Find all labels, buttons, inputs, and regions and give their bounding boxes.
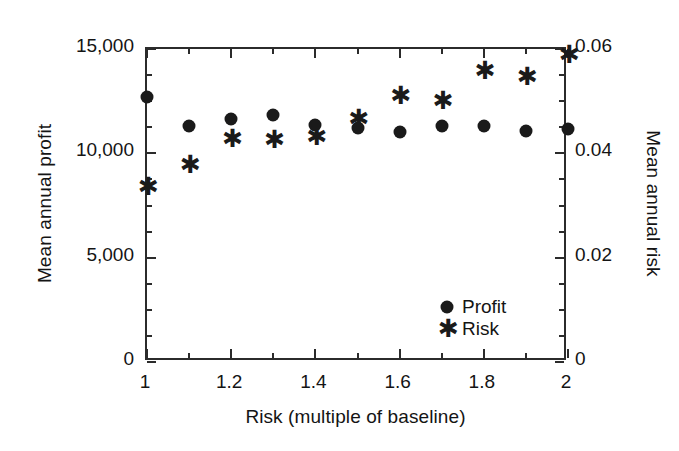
tick-x-bottom-major: [314, 349, 316, 358]
star-icon: [438, 320, 456, 338]
y-axis-left-title: Mean annual profit: [30, 47, 60, 360]
tick-x-top-major: [399, 49, 401, 58]
legend-item-risk[interactable]: Risk: [436, 318, 556, 340]
tick-y-right-minor: [559, 335, 564, 337]
tick-x-bottom-minor: [525, 353, 527, 358]
tick-x-bottom-minor: [441, 353, 443, 358]
x-axis-tick-label: 1.2: [189, 371, 269, 393]
tick-x-top-minor: [357, 49, 359, 54]
tick-x-bottom-major: [567, 349, 569, 358]
tick-y-left-major: [147, 361, 156, 363]
legend-label-risk: Risk: [462, 318, 499, 340]
tick-x-top-major: [146, 49, 148, 58]
profit-point-1.9[interactable]: [519, 125, 532, 138]
tick-x-bottom-minor: [357, 353, 359, 358]
x-axis-tick-label: 1.8: [442, 371, 522, 393]
tick-x-top-major: [230, 49, 232, 58]
tick-y-left-minor: [147, 309, 152, 311]
tick-x-bottom-minor: [188, 353, 190, 358]
profit-point-1.1[interactable]: [183, 120, 196, 133]
profit-point-1.6[interactable]: [393, 126, 406, 139]
tick-x-bottom-major: [399, 349, 401, 358]
tick-x-top-major: [314, 49, 316, 58]
y-axis-right-title: Mean annual risk: [638, 47, 668, 360]
profit-point-2[interactable]: [562, 123, 575, 136]
risk-point-1.5[interactable]: [349, 110, 367, 128]
y-axis-right-tick-label: 0.04: [575, 139, 675, 161]
tick-y-right-minor: [559, 178, 564, 180]
profit-point-1.3[interactable]: [267, 108, 280, 121]
tick-y-left-minor: [147, 335, 152, 337]
tick-y-right-minor: [559, 205, 564, 207]
y-axis-left-tick-label: 5,000: [14, 244, 134, 266]
y-axis-right-tick-label: 0: [575, 348, 675, 370]
risk-point-1.6[interactable]: [391, 87, 409, 105]
y-axis-left-tick-label: 15,000: [14, 35, 134, 57]
y-axis-left-tick-label: 10,000: [14, 139, 134, 161]
risk-point-1[interactable]: [138, 178, 156, 196]
x-axis-title: Risk (multiple of baseline): [145, 406, 566, 428]
legend-swatch-risk: [436, 318, 462, 340]
tick-x-bottom-major: [230, 349, 232, 358]
x-axis-tick-label: 1.6: [358, 371, 438, 393]
tick-y-right-major: [555, 361, 564, 363]
x-axis-tick-label: 1: [105, 371, 185, 393]
chart-figure: Mean annual profit Mean annual risk Risk…: [0, 0, 679, 451]
tick-x-top-minor: [525, 49, 527, 54]
tick-x-top-minor: [441, 49, 443, 54]
tick-x-top-minor: [272, 49, 274, 54]
tick-y-right-minor: [559, 74, 564, 76]
tick-y-left-minor: [147, 74, 152, 76]
x-axis-tick-label: 1.4: [273, 371, 353, 393]
circle-icon: [441, 301, 454, 314]
profit-point-1.7[interactable]: [435, 120, 448, 133]
chart-legend: ProfitRisk: [436, 296, 556, 340]
tick-y-right-minor: [559, 100, 564, 102]
x-axis-tick-label: 2: [526, 371, 606, 393]
risk-point-1.1[interactable]: [180, 156, 198, 174]
risk-point-1.9[interactable]: [517, 68, 535, 86]
risk-point-1.4[interactable]: [306, 128, 324, 146]
risk-point-1.3[interactable]: [264, 131, 282, 149]
tick-y-left-minor: [147, 283, 152, 285]
tick-x-bottom-minor: [272, 353, 274, 358]
tick-y-right-minor: [559, 231, 564, 233]
tick-y-right-minor: [559, 309, 564, 311]
tick-y-right-major: [555, 152, 564, 154]
legend-label-profit: Profit: [462, 296, 506, 318]
y-axis-right-tick-label: 0.06: [575, 35, 675, 57]
tick-y-left-major: [147, 48, 156, 50]
tick-y-left-minor: [147, 231, 152, 233]
tick-x-bottom-major: [146, 349, 148, 358]
tick-y-left-major: [147, 257, 156, 259]
tick-y-left-minor: [147, 126, 152, 128]
tick-y-right-major: [555, 257, 564, 259]
risk-point-1.2[interactable]: [222, 130, 240, 148]
tick-y-right-minor: [559, 283, 564, 285]
tick-x-bottom-major: [483, 349, 485, 358]
risk-point-1.7[interactable]: [433, 92, 451, 110]
tick-y-left-major: [147, 152, 156, 154]
tick-y-left-minor: [147, 205, 152, 207]
y-axis-left-tick-label: 0: [14, 348, 134, 370]
y-axis-right-tick-label: 0.02: [575, 244, 675, 266]
risk-point-1.8[interactable]: [475, 62, 493, 80]
tick-x-top-minor: [188, 49, 190, 54]
profit-point-1.8[interactable]: [477, 120, 490, 133]
profit-point-1[interactable]: [141, 90, 154, 103]
